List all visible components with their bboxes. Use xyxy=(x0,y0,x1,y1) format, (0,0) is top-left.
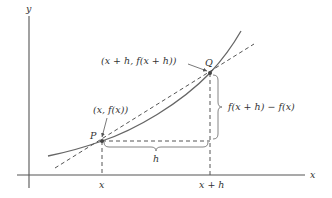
h-brace xyxy=(104,142,208,151)
point-Q-coord-label: (x + h, f(x + h)) xyxy=(101,55,177,66)
point-P-coord-label: (x, f(x)) xyxy=(93,104,128,115)
rise-label: f(x + h) − f(x) xyxy=(227,101,295,112)
secant-line-diagram: y x h f(x + h) − f(x) P Q (x, f(x)) (x +… xyxy=(0,0,332,198)
x-axis-label: x xyxy=(310,169,316,180)
point-P xyxy=(100,139,104,143)
tick-label-x-plus-h: x + h xyxy=(199,179,224,190)
function-curve xyxy=(48,31,241,156)
point-P-label: P xyxy=(89,130,97,141)
rise-brace xyxy=(213,75,222,139)
point-Q-label: Q xyxy=(205,57,213,68)
h-label: h xyxy=(153,153,159,164)
point-P-pointer xyxy=(102,118,107,137)
point-Q xyxy=(208,71,212,75)
tick-label-x: x xyxy=(99,179,105,190)
y-axis-label: y xyxy=(25,3,32,14)
